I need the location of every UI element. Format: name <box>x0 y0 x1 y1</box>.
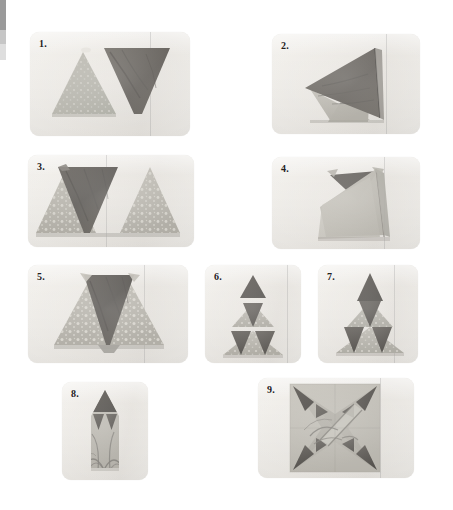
scan-edge-artifact-light <box>0 44 6 60</box>
step-label-6: 6. <box>214 271 222 282</box>
step-photo-5[interactable]: 5. <box>28 265 188 363</box>
step-photo-1[interactable]: 1. <box>30 32 190 136</box>
step-photo-2[interactable]: 2. <box>272 34 420 134</box>
step-label-2: 2. <box>281 40 289 51</box>
step-5-artwork <box>28 265 188 363</box>
step-photo-8[interactable]: 8. <box>62 382 148 480</box>
step-label-8: 8. <box>71 388 79 399</box>
step-label-3: 3. <box>37 161 45 172</box>
step-photo-3[interactable]: 3. <box>28 155 194 247</box>
page-canvas: 1. 2. <box>0 0 453 510</box>
step-label-4: 4. <box>281 163 289 174</box>
step-photo-6[interactable]: 6. <box>205 265 301 363</box>
scan-edge-artifact-mid <box>0 30 6 44</box>
step-photo-7[interactable]: 7. <box>318 265 418 363</box>
step-9-artwork <box>258 378 414 478</box>
scan-edge-artifact-dark <box>0 0 6 30</box>
step-label-1: 1. <box>39 38 47 49</box>
step-3-artwork <box>28 155 194 247</box>
step-label-7: 7. <box>327 271 335 282</box>
step-2-artwork <box>272 34 420 134</box>
step-photo-9[interactable]: 9. <box>258 378 414 478</box>
step-label-9: 9. <box>267 384 275 395</box>
step-1-artwork <box>30 32 190 136</box>
step-4-artwork <box>272 157 420 249</box>
step-label-5: 5. <box>37 271 45 282</box>
step-photo-4[interactable]: 4. <box>272 157 420 249</box>
